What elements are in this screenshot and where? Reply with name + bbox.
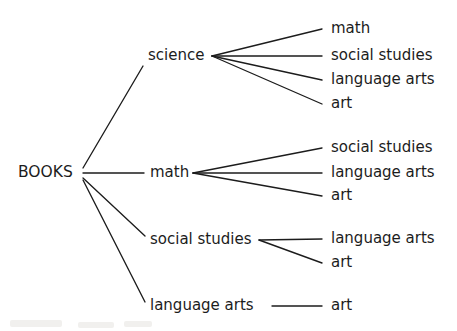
- node-label-math: math: [150, 165, 189, 180]
- node-label-math-language-arts: language arts: [331, 165, 435, 180]
- scan-artifact: [78, 322, 114, 328]
- node-label-ss-language-arts: language arts: [331, 231, 435, 246]
- tree-diagram: BOOKSsciencemathsocial studieslanguage a…: [0, 0, 457, 331]
- scan-artifact: [124, 321, 152, 327]
- tree-edge: [212, 56, 322, 80]
- node-label-social-studies: social studies: [150, 232, 251, 247]
- node-label-science: science: [148, 48, 204, 63]
- tree-edge: [83, 180, 145, 302]
- node-label-math-art: art: [331, 188, 352, 203]
- node-label-root: BOOKS: [18, 165, 73, 181]
- tree-edge: [259, 240, 322, 263]
- node-label-science-art: art: [331, 96, 352, 111]
- tree-edge: [212, 29, 322, 56]
- node-label-language-arts: language arts: [150, 298, 254, 313]
- scan-artifact: [10, 320, 62, 327]
- tree-edge: [212, 56, 322, 104]
- tree-edge: [259, 239, 322, 240]
- edge-group: [83, 29, 322, 306]
- node-label-ss-art: art: [331, 255, 352, 270]
- node-label-science-social-studies: social studies: [331, 48, 432, 63]
- tree-edge: [83, 178, 145, 236]
- node-label-math-social-studies: social studies: [331, 140, 432, 155]
- node-label-science-language-arts: language arts: [331, 72, 435, 87]
- node-label-la-art: art: [331, 298, 352, 313]
- tree-edge: [193, 148, 322, 173]
- tree-edge: [193, 173, 322, 196]
- tree-edge: [83, 66, 143, 168]
- node-label-science-math: math: [331, 21, 370, 36]
